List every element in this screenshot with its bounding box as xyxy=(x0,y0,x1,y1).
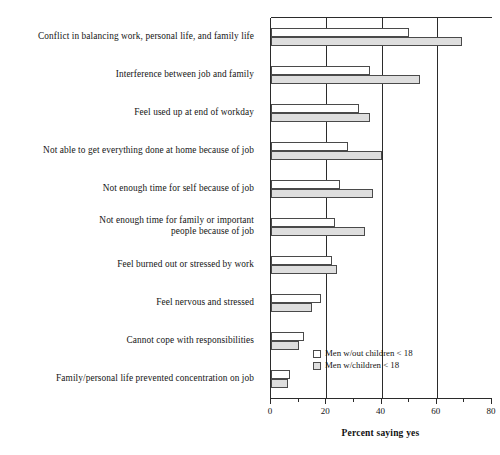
category-label: Feel used up at end of workday xyxy=(0,107,254,118)
bar-1-7 xyxy=(271,303,312,312)
category-label-line: Feel nervous and stressed xyxy=(0,297,254,308)
category-label-column: Conflict in balancing work, personal lif… xyxy=(0,18,262,398)
category-label-line: Cannot cope with responsibilities xyxy=(0,335,254,346)
x-tick-label: 80 xyxy=(476,406,500,416)
x-tick-major xyxy=(270,398,271,404)
bar-1-1 xyxy=(271,75,420,84)
bar-group xyxy=(271,18,492,56)
legend-swatch-icon xyxy=(313,350,321,358)
category-label: Not enough time for self because of job xyxy=(0,183,254,194)
category-label: Not able to get everything done at home … xyxy=(0,145,254,156)
bar-1-2 xyxy=(271,113,370,122)
x-tick-major xyxy=(325,398,326,404)
x-tick-minor xyxy=(463,398,464,402)
category-label: Interference between job and family xyxy=(0,69,254,80)
category-label-line: Not able to get everything done at home … xyxy=(0,145,254,156)
x-tick-label: 40 xyxy=(366,406,396,416)
category-label-line: Family/personal life prevented concentra… xyxy=(0,373,254,384)
bar-group xyxy=(271,208,492,246)
legend-label: Men w/children < 18 xyxy=(325,360,399,371)
bar-group xyxy=(271,170,492,208)
x-tick-label: 60 xyxy=(421,406,451,416)
legend-item-0: Men w/out children < 18 xyxy=(313,348,413,359)
bar-0-0 xyxy=(271,28,409,37)
x-tick-label: 0 xyxy=(255,406,285,416)
x-axis-title: Percent saying yes xyxy=(270,428,491,438)
bar-1-4 xyxy=(271,189,373,198)
plot-area xyxy=(270,18,492,398)
category-label-line: Feel used up at end of workday xyxy=(0,107,254,118)
bar-group xyxy=(271,56,492,94)
bar-group xyxy=(271,94,492,132)
category-label: Feel nervous and stressed xyxy=(0,297,254,308)
legend-label: Men w/out children < 18 xyxy=(325,348,413,359)
x-tick-major xyxy=(436,398,437,404)
category-label-line: Feel burned out or stressed by work xyxy=(0,259,254,270)
bar-1-6 xyxy=(271,265,337,274)
x-tick-minor xyxy=(408,398,409,402)
x-tick-minor xyxy=(353,398,354,402)
x-tick-major xyxy=(491,398,492,404)
category-label-line: people because of job xyxy=(0,226,254,237)
category-label-line: Interference between job and family xyxy=(0,69,254,80)
bar-0-2 xyxy=(271,104,359,113)
x-tick-label: 20 xyxy=(310,406,340,416)
bar-0-3 xyxy=(271,142,348,151)
category-label-line: Not enough time for family or important xyxy=(0,215,254,226)
legend-item-1: Men w/children < 18 xyxy=(313,360,413,371)
category-label: Not enough time for family or importantp… xyxy=(0,215,254,236)
bar-0-4 xyxy=(271,180,340,189)
bar-1-8 xyxy=(271,341,299,350)
bar-1-5 xyxy=(271,227,365,236)
bar-0-1 xyxy=(271,66,370,75)
bar-1-3 xyxy=(271,151,382,160)
category-label: Cannot cope with responsibilities xyxy=(0,335,254,346)
category-label-line: Conflict in balancing work, personal lif… xyxy=(0,31,254,42)
x-tick-major xyxy=(381,398,382,404)
x-tick-minor xyxy=(298,398,299,402)
category-label: Family/personal life prevented concentra… xyxy=(0,373,254,384)
category-label: Conflict in balancing work, personal lif… xyxy=(0,31,254,42)
chart-legend: Men w/out children < 18 Men w/children <… xyxy=(313,348,413,373)
bar-1-9 xyxy=(271,379,288,388)
legend-swatch-icon xyxy=(313,362,321,370)
bar-0-9 xyxy=(271,370,290,379)
category-label: Feel burned out or stressed by work xyxy=(0,259,254,270)
bar-group xyxy=(271,246,492,284)
bar-0-8 xyxy=(271,332,304,341)
bar-1-0 xyxy=(271,37,462,46)
bar-group xyxy=(271,132,492,170)
bar-0-7 xyxy=(271,294,321,303)
bar-group xyxy=(271,284,492,322)
bar-0-5 xyxy=(271,218,335,227)
bar-0-6 xyxy=(271,256,332,265)
category-label-line: Not enough time for self because of job xyxy=(0,183,254,194)
